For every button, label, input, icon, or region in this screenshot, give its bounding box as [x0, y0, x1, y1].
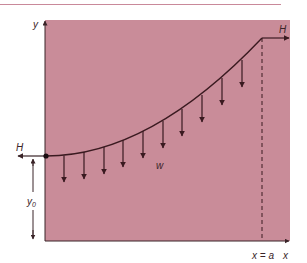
y0-label-subscript: 0	[32, 201, 36, 208]
plot-area	[45, 20, 290, 241]
x-equals-a-label: x = a	[251, 250, 274, 261]
tension-left-label: H	[16, 142, 24, 153]
x-axis-label: x	[282, 250, 289, 261]
y-axis-label: y	[32, 19, 39, 30]
y0-label: y0	[26, 196, 36, 208]
load-label: w	[156, 160, 164, 171]
cable-diagram: y x H H w y0 x = a	[0, 0, 307, 263]
lowest-point-dot	[43, 153, 48, 158]
tension-right-label: H	[279, 24, 287, 35]
